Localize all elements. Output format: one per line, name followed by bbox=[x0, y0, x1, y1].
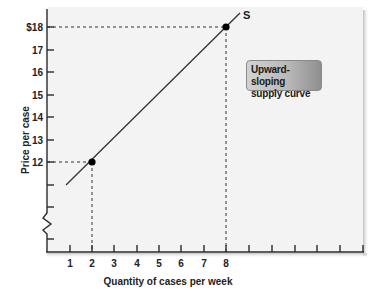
x-tick-7: 7 bbox=[201, 258, 207, 269]
point-q2-p12 bbox=[88, 158, 95, 165]
y-tick-16: 16 bbox=[32, 67, 44, 78]
point-q8-p18 bbox=[222, 23, 229, 30]
y-tick-18: $18 bbox=[26, 22, 43, 33]
annotation-line-2: supply curve bbox=[251, 88, 317, 100]
panel-shadow-bottom bbox=[47, 253, 367, 258]
series-label-s: S bbox=[243, 9, 250, 21]
supply-curve-chart: S $18 17 16 15 14 13 12 Price per case bbox=[0, 0, 383, 301]
y-tick-12: 12 bbox=[32, 157, 44, 168]
annotation-line-1: Upward-sloping bbox=[251, 64, 317, 88]
x-tick-2: 2 bbox=[89, 258, 95, 269]
panel-shadow-right bbox=[363, 10, 369, 256]
x-tick-6: 6 bbox=[178, 258, 184, 269]
y-tick-17: 17 bbox=[32, 45, 44, 56]
x-tick-4: 4 bbox=[134, 258, 140, 269]
y-tick-15: 15 bbox=[32, 90, 44, 101]
x-axis-title: Quantity of cases per week bbox=[104, 276, 233, 287]
plot-panel bbox=[47, 7, 363, 252]
y-tick-14: 14 bbox=[32, 112, 44, 123]
x-tick-8: 8 bbox=[223, 258, 229, 269]
x-tick-labels: 1 2 3 4 5 6 7 8 bbox=[67, 258, 229, 269]
x-tick-3: 3 bbox=[111, 258, 117, 269]
x-tick-5: 5 bbox=[156, 258, 162, 269]
x-tick-1: 1 bbox=[67, 258, 73, 269]
annotation-callout: Upward-sloping supply curve bbox=[246, 60, 322, 91]
y-axis-title: Price per case bbox=[20, 106, 31, 174]
y-tick-13: 13 bbox=[32, 135, 44, 146]
